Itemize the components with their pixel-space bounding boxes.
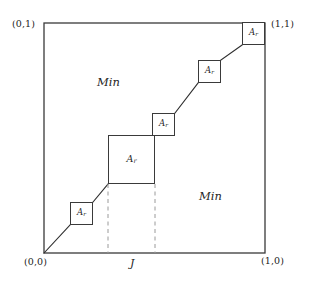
ar-box-4-label: Ar (205, 66, 214, 76)
ar-box-3-label: Ar (159, 119, 168, 129)
segment-box1-to-square (93, 184, 108, 202)
j-interval-projections (108, 184, 155, 253)
ar-box-3: Ar (152, 113, 175, 136)
ar-box-1: Ar (70, 202, 93, 225)
ar-box-5: Ar (242, 22, 265, 45)
region-label-min-upper: Min (97, 77, 120, 89)
segment-origin-to-box1 (44, 225, 70, 253)
segment-box4-to-box5 (221, 45, 242, 60)
corner-label-bottom-left: (0,0) (24, 257, 47, 267)
segment-box3-to-box4 (175, 83, 198, 113)
corner-label-top-left: (0,1) (12, 19, 35, 29)
ar-box-1-label: Ar (77, 208, 86, 218)
ar-box-2: Ar (108, 135, 155, 184)
ar-box-4: Ar (198, 60, 221, 83)
corner-label-top-right: (1,1) (271, 19, 294, 29)
ar-box-5-label: Ar (249, 28, 258, 38)
ar-box-2-label: Ar (127, 154, 137, 165)
staircase-diagram-figure: Ar Ar Ar Ar Ar (0,1) (1,1) (0,0) (1,0) M… (0, 0, 310, 282)
region-label-min-lower: Min (199, 191, 222, 203)
corner-label-bottom-right: (1,0) (261, 256, 284, 266)
axis-label-j: J (130, 258, 134, 269)
